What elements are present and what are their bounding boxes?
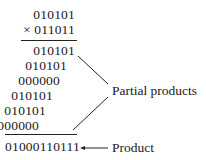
product-label: Product: [112, 141, 154, 155]
arrow-left-icon: [80, 146, 85, 150]
partial-products-label: Partial products: [112, 84, 197, 98]
annotation-lines: [0, 0, 206, 160]
